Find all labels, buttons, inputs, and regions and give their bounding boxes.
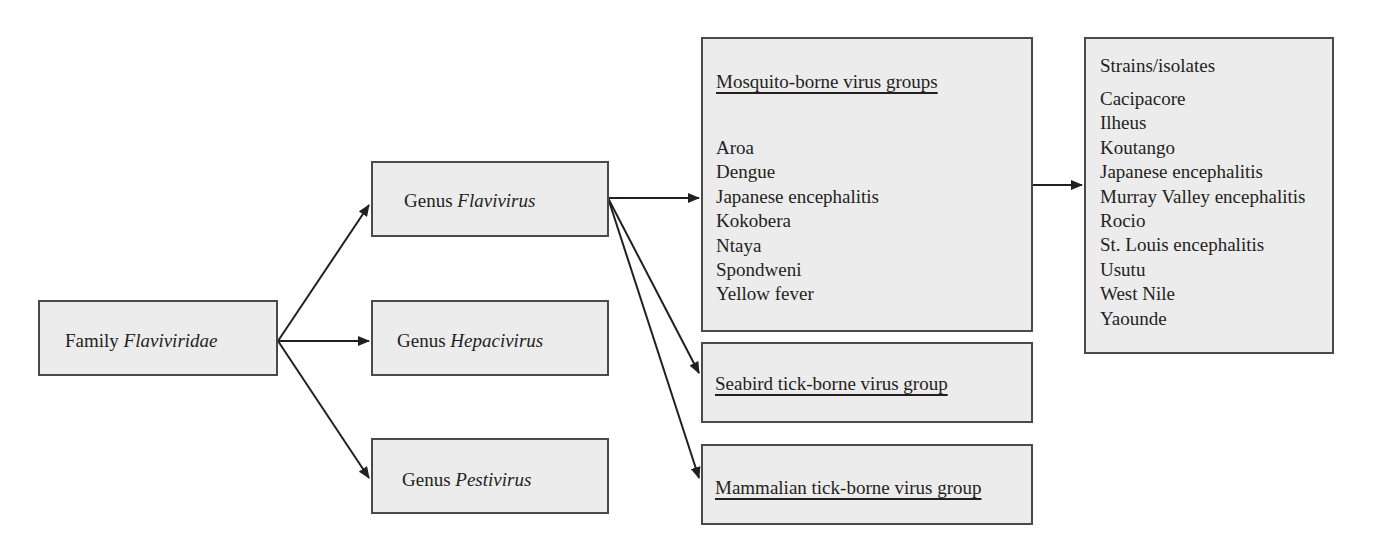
list-item: Koutango xyxy=(1100,136,1305,160)
list-item: Usutu xyxy=(1100,258,1305,282)
list-item: Japanese encephalitis xyxy=(716,185,879,209)
list-item: Ntaya xyxy=(716,234,879,258)
list-item: Ilheus xyxy=(1100,111,1305,135)
genus-name: Pestivirus xyxy=(455,469,531,490)
genus-prefix: Genus xyxy=(404,190,453,211)
genus-prefix: Genus xyxy=(402,469,451,490)
list-item: Aroa xyxy=(716,136,879,160)
list-item: West Nile xyxy=(1100,282,1305,306)
genus-flavivirus-box: Genus Flavivirus xyxy=(371,161,609,237)
genus-hepacivirus-label: Genus Hepacivirus xyxy=(397,331,543,350)
genus-name: Hepacivirus xyxy=(450,330,543,351)
mammalian-tick-borne-group-box: Mammalian tick-borne virus group xyxy=(701,444,1033,525)
genus-pestivirus-box: Genus Pestivirus xyxy=(371,438,609,514)
list-item: Murray Valley encephalitis xyxy=(1100,185,1305,209)
strains-isolates-title: Strains/isolates xyxy=(1100,56,1215,75)
arrow-flavivirus-to-mammalian xyxy=(608,198,699,478)
mosquito-borne-groups-box: Mosquito-borne virus groups Aroa Dengue … xyxy=(701,37,1033,332)
seabird-tick-borne-group-box: Seabird tick-borne virus group xyxy=(701,342,1033,423)
arrow-flavivirus-to-seabird xyxy=(608,198,699,373)
list-item: Rocio xyxy=(1100,209,1305,233)
arrow-family-to-pestivirus xyxy=(278,341,369,478)
mosquito-borne-title: Mosquito-borne virus groups xyxy=(716,72,938,91)
list-item: St. Louis encephalitis xyxy=(1100,233,1305,257)
family-label: Family Flaviviridae xyxy=(65,331,218,350)
list-item: Dengue xyxy=(716,160,879,184)
arrow-family-to-flavivirus xyxy=(278,205,369,341)
family-prefix: Family xyxy=(65,330,119,351)
strains-isolates-list: Cacipacore Ilheus Koutango Japanese ence… xyxy=(1100,87,1305,331)
genus-flavivirus-label: Genus Flavivirus xyxy=(404,191,535,210)
list-item: Yaounde xyxy=(1100,307,1305,331)
family-name: Flaviviridae xyxy=(124,330,218,351)
genus-pestivirus-label: Genus Pestivirus xyxy=(402,470,531,489)
list-item: Japanese encephalitis xyxy=(1100,160,1305,184)
strains-isolates-box: Strains/isolates Cacipacore Ilheus Kouta… xyxy=(1084,37,1334,354)
list-item: Kokobera xyxy=(716,209,879,233)
genus-hepacivirus-box: Genus Hepacivirus xyxy=(371,300,609,376)
genus-prefix: Genus xyxy=(397,330,446,351)
list-item: Yellow fever xyxy=(716,282,879,306)
list-item: Spondweni xyxy=(716,258,879,282)
mammalian-tick-borne-title: Mammalian tick-borne virus group xyxy=(715,478,981,497)
family-flaviviridae-box: Family Flaviviridae xyxy=(38,300,278,376)
genus-name: Flavivirus xyxy=(457,190,535,211)
mosquito-borne-list: Aroa Dengue Japanese encephalitis Kokobe… xyxy=(716,136,879,307)
list-item: Cacipacore xyxy=(1100,87,1305,111)
seabird-tick-borne-title: Seabird tick-borne virus group xyxy=(715,374,948,393)
